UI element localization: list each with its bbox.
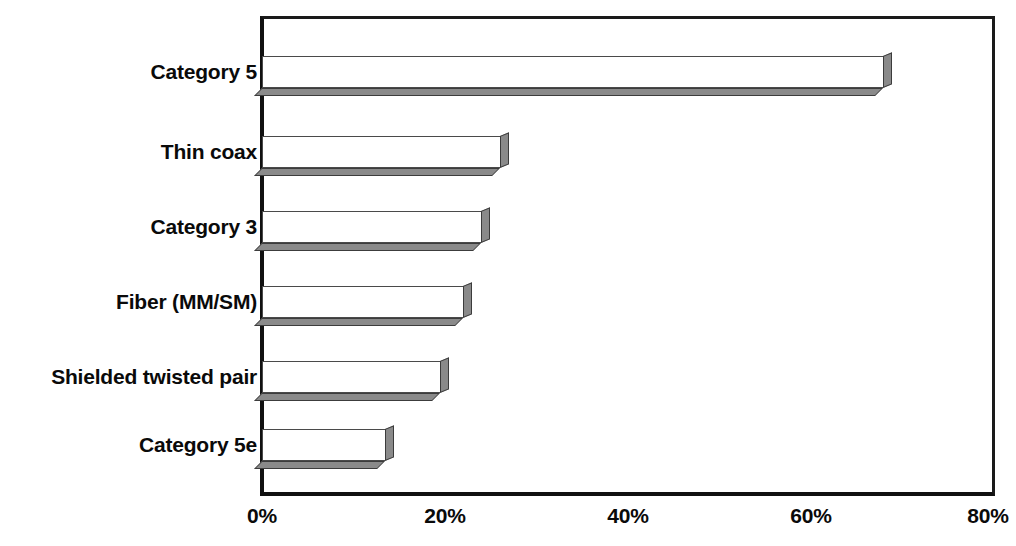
bar-category-3 xyxy=(262,211,481,243)
bar-shielded-twisted-pair xyxy=(262,361,440,393)
x-tick-label-20: 20% xyxy=(385,505,505,526)
category-label-category-5: Category 5 xyxy=(0,61,257,82)
bar-side-face xyxy=(500,132,509,168)
bar-bottom-face xyxy=(254,393,440,401)
bar-bottom-face xyxy=(254,168,500,176)
bar-front-face xyxy=(262,211,481,243)
bar-fiber-mm-sm xyxy=(262,286,463,318)
bar-front-face xyxy=(262,286,463,318)
bar-bottom-face xyxy=(254,243,481,251)
x-tick-label-60: 60% xyxy=(751,505,871,526)
bar-bottom-face xyxy=(254,88,883,96)
bar-side-face xyxy=(385,425,394,461)
bar-chart: Category 5 Thin coax Category 3 Fiber (M… xyxy=(0,0,1016,546)
bar-front-face xyxy=(262,136,500,168)
bar-category-5 xyxy=(262,56,883,88)
bar-front-face xyxy=(262,56,883,88)
bar-side-face xyxy=(440,357,449,393)
bar-bottom-face xyxy=(254,461,385,469)
x-tick-label-40: 40% xyxy=(568,505,688,526)
bar-front-face xyxy=(262,429,385,461)
category-label-thin-coax: Thin coax xyxy=(0,141,257,162)
bar-side-face xyxy=(883,52,892,88)
x-tick-label-80: 80% xyxy=(928,505,1016,526)
category-label-category-5e: Category 5e xyxy=(0,434,257,455)
category-label-shielded-twisted-pair: Shielded twisted pair xyxy=(0,366,257,387)
bar-front-face xyxy=(262,361,440,393)
bar-bottom-face xyxy=(254,318,463,326)
x-tick-label-0: 0% xyxy=(202,505,322,526)
bar-side-face xyxy=(481,207,490,243)
bar-category-5e xyxy=(262,429,385,461)
bar-side-face xyxy=(463,282,472,318)
category-label-fiber-mm-sm: Fiber (MM/SM) xyxy=(0,291,257,312)
category-label-category-3: Category 3 xyxy=(0,216,257,237)
bar-thin-coax xyxy=(262,136,500,168)
